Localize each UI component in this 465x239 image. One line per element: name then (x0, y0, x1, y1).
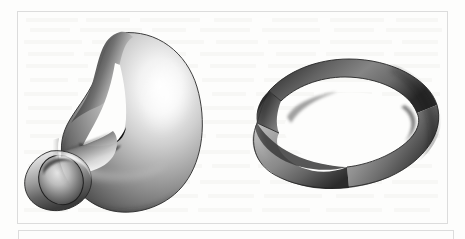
scanned-page (0, 0, 465, 239)
klein-bottle-illustration (17, 19, 227, 219)
figure-stage (17, 11, 446, 222)
mobius-strip-illustration (245, 47, 445, 212)
caption-frame (18, 230, 454, 239)
klein-bottle-mouth (25, 149, 92, 210)
